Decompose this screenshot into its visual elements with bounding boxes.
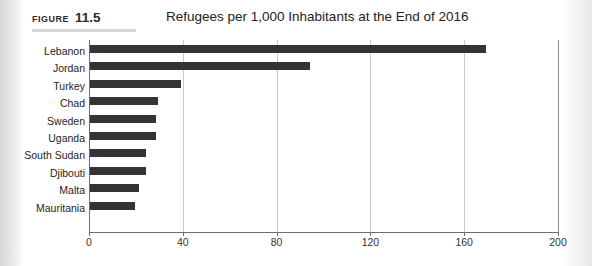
bar-row: Uganda [22,131,564,148]
bar [90,62,310,70]
bar [90,149,146,157]
bar-category-label: Chad [0,97,85,109]
bar [90,184,139,192]
bar-category-label: Jordan [0,62,85,74]
bar [90,202,135,210]
bar [90,80,181,88]
x-axis-tick-labels: 04080120160200 [22,236,564,254]
figure-label-underline [32,29,136,32]
bar-row: Chad [22,96,564,113]
tick-mark-0 [89,232,90,236]
bar-row: Lebanon [22,44,564,61]
bar-category-label: Mauritania [0,202,85,214]
tick-mark-200 [558,232,559,236]
page-gutter-right [564,0,592,266]
figure-label-block: FIGURE 11.5 [32,10,148,32]
x-tick-label: 160 [455,236,473,248]
bar [90,97,158,105]
figure-label: FIGURE 11.5 [32,10,148,25]
bar-row: Jordan [22,61,564,78]
chart-plot-area: LebanonJordanTurkeyChadSwedenUgandaSouth… [22,40,564,266]
bar-category-label: Sweden [0,115,85,127]
bar-row: Malta [22,183,564,200]
bar-row: South Sudan [22,148,564,165]
bar-row: Djibouti [22,166,564,183]
figure-label-word: FIGURE [32,14,69,24]
x-tick-label: 0 [86,236,92,248]
bar-category-label: Lebanon [0,45,85,57]
x-tick-label: 120 [362,236,380,248]
bar [90,167,146,175]
x-tick-label: 80 [271,236,283,248]
bar-category-label: South Sudan [0,149,85,161]
tick-mark-80 [277,232,278,236]
bar-category-label: Malta [0,184,85,196]
bar-row: Turkey [22,79,564,96]
bar-category-label: Uganda [0,132,85,144]
tick-mark-120 [370,232,371,236]
bar [90,132,156,140]
figure-label-number: 11.5 [75,10,101,25]
bar-category-label: Turkey [0,80,85,92]
x-tick-label: 200 [549,236,567,248]
bar-series: LebanonJordanTurkeyChadSwedenUgandaSouth… [22,40,564,232]
bar-category-label: Djibouti [0,167,85,179]
bar-row: Sweden [22,114,564,131]
bar-row: Mauritania [22,201,564,218]
bar [90,115,156,123]
bar [90,45,486,53]
figure-header: FIGURE 11.5 Refugees per 1,000 Inhabitan… [22,8,564,34]
chart-title: Refugees per 1,000 Inhabitants at the En… [166,9,468,24]
tick-mark-40 [183,232,184,236]
x-tick-label: 40 [177,236,189,248]
tick-mark-160 [464,232,465,236]
x-axis-line [89,232,559,233]
figure-page: FIGURE 11.5 Refugees per 1,000 Inhabitan… [22,0,564,266]
